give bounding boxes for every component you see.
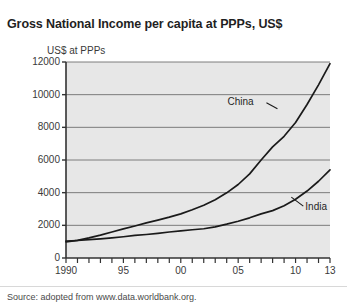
chart-figure: Gross National Income per capita at PPPs… [0, 0, 347, 308]
y-tick-label: 4000 [18, 187, 60, 198]
y-tick-label: 8000 [18, 121, 60, 132]
x-tick-label: 10 [290, 265, 301, 276]
x-tick-label: 00 [175, 265, 186, 276]
x-tick-label: 05 [233, 265, 244, 276]
source-note: Source: adopted from www.data.worldbank.… [7, 292, 197, 302]
x-tick-label: 13 [324, 265, 335, 276]
y-tick-label: 2000 [18, 219, 60, 230]
source-divider [0, 286, 347, 287]
y-tick-label: 10000 [18, 89, 60, 100]
y-tick-label: 6000 [18, 154, 60, 165]
y-tick-label: 12000 [18, 56, 60, 67]
x-tick-label: 95 [118, 265, 129, 276]
series-label-india: India [305, 201, 327, 212]
x-tick-label: 1990 [55, 265, 77, 276]
series-label-china: China [227, 96, 253, 107]
y-tick-label: 0 [18, 252, 60, 263]
